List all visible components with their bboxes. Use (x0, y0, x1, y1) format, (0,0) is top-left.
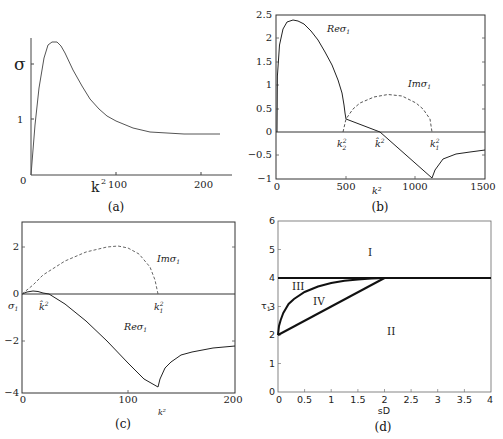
c-re-label: Reσ1 (123, 321, 147, 333)
b-xtick: 0 (274, 181, 280, 192)
d-xtick: 2 (381, 394, 387, 405)
b-k2-label: k22 (337, 137, 347, 151)
c-xtick: 100 (118, 394, 137, 405)
b-ytick: 2 (266, 32, 272, 43)
b-xtick: 1000 (402, 181, 427, 192)
b-re-sigma-curve (277, 20, 485, 178)
a-ylabel: σ (14, 54, 26, 74)
a-tick-0: 0 (20, 175, 26, 186)
d-ytick: 6 (269, 215, 275, 226)
b-ytick: 2.5 (256, 9, 272, 20)
c-ylabel: σ1 (8, 300, 18, 312)
c-k1-label: k21 (154, 300, 164, 314)
c-xtick: 200 (223, 394, 242, 405)
d-xlabel: sD (378, 405, 390, 416)
b-xtick: 1500 (470, 181, 495, 192)
d-ytick: 2 (269, 329, 275, 340)
caption-b: (b) (371, 200, 388, 214)
b-ytick: 1.5 (256, 56, 272, 67)
c-im-label: Imσ1 (156, 253, 180, 265)
figure: 0 100 200 1 σ k 2 (a) 2.5 2 1.5 1 0.5 0 … (0, 0, 503, 439)
d-region-I: I (368, 246, 372, 258)
c-xtick: 0 (20, 394, 26, 405)
c-ytick: 0 (13, 288, 19, 299)
a-xlabel: k (91, 179, 100, 195)
b-k1-label: k21 (430, 137, 440, 151)
c-ytick: −4 (4, 387, 19, 398)
b-ytick: 1 (266, 79, 272, 90)
d-xtick: 0.5 (297, 394, 312, 405)
c-re-sigma-curve (22, 291, 235, 387)
b-ytick: −1 (257, 173, 272, 184)
c-ytick: −2 (4, 335, 19, 346)
d-xtick: 1 (328, 394, 334, 405)
c-khat-label: k̂2 (39, 300, 49, 312)
caption-a: (a) (108, 200, 125, 214)
b-xtick: 500 (336, 181, 355, 192)
d-xtick: 4 (487, 394, 493, 405)
c-im-sigma-curve (22, 246, 158, 294)
b-ytick: 0 (266, 126, 272, 137)
d-ytick: 5 (269, 244, 275, 255)
panel-a: 0 100 200 1 σ k 2 (a) (14, 38, 232, 214)
b-khat-label: k̂2 (375, 137, 385, 149)
caption-d: (d) (374, 420, 391, 434)
d-ytick: 4 (269, 272, 275, 283)
d-ytick: 1 (269, 358, 275, 369)
d-xtick: 0 (276, 394, 282, 405)
b-im-label: Imσ1 (407, 78, 431, 90)
d-xtick: 1.5 (350, 394, 365, 405)
panel-c: 2 0 −2 −4 0 100 200 k² σ1 Imσ1 Reσ1 k̂2 … (4, 222, 242, 431)
b-ytick: −0.5 (248, 149, 272, 160)
a-tick-100: 100 (108, 179, 127, 190)
sigma-curve (31, 42, 220, 175)
b-im-sigma-curve (343, 95, 432, 133)
panel-b: 2.5 2 1.5 1 0.5 0 −0.5 −1 0 500 1000 150… (248, 9, 496, 214)
b-ytick: 0.5 (256, 103, 272, 114)
d-xtick: 3.5 (457, 394, 472, 405)
b-re-label: Reσ1 (326, 23, 350, 35)
b-xlabel: k² (372, 185, 382, 196)
d-region-III: III (292, 280, 304, 292)
d-xtick: 3 (435, 394, 441, 405)
a-tick-200: 200 (194, 179, 213, 190)
c-xlabel: k² (158, 408, 166, 417)
d-region-IV: IV (313, 295, 325, 307)
a-xlabel-sup: 2 (101, 177, 106, 186)
d-region-II: II (387, 325, 395, 337)
a-ytick-1: 1 (17, 114, 23, 125)
d-frame (278, 221, 491, 392)
d-xtick: 2.5 (404, 394, 419, 405)
panel-d: 0 1 2 3 4 5 6 0 0.5 1 1.5 2 2.5 3 3.5 4 … (261, 215, 493, 434)
d-ytick: 0 (269, 386, 275, 397)
caption-c: (c) (115, 417, 131, 431)
c-frame (22, 222, 235, 393)
c-ytick: 2 (13, 241, 19, 252)
